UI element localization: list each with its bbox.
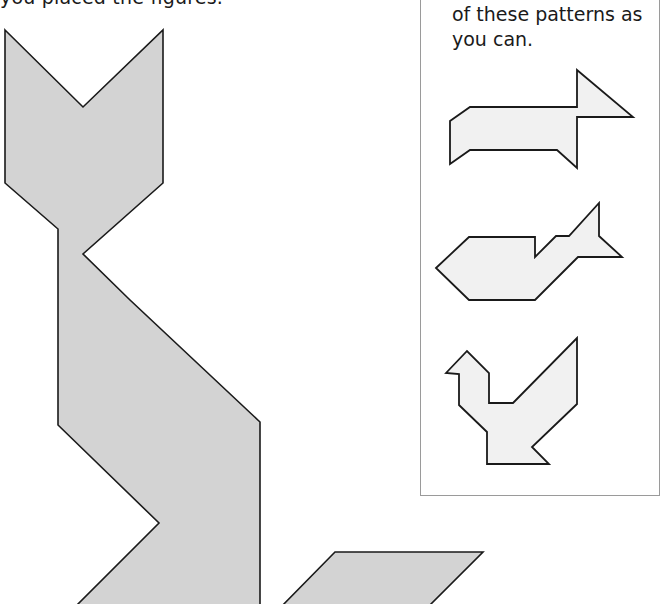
fish-pattern [436, 203, 622, 300]
cat-body-shape [5, 30, 260, 604]
cat-tail-shape [278, 552, 483, 604]
cat-tangram-figure [5, 30, 483, 604]
bird-pattern [446, 338, 577, 464]
dog-pattern [450, 70, 633, 168]
